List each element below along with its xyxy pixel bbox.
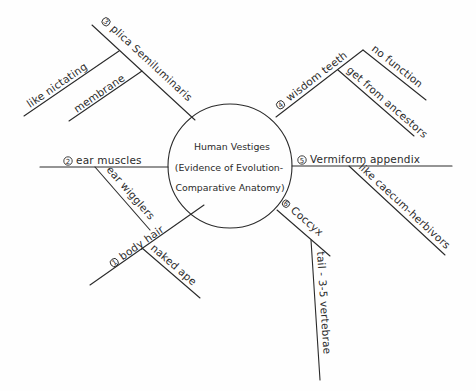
branch-label: ear muscles (76, 154, 142, 166)
detail-label: naked ape (149, 241, 200, 287)
branch-line (92, 25, 195, 120)
mind-map-svg: Human Vestiges (Evidence of Evolution- C… (0, 0, 476, 391)
branch-line (276, 50, 363, 117)
branch-coccyx: 6 Coccyx tail - 3-5 vertebrae (277, 196, 334, 380)
detail-label: ear wigglers (104, 163, 157, 221)
branch-wisdom-teeth: 4 wisdom teeth no function get from ance… (273, 42, 430, 140)
detail-line (338, 70, 414, 136)
central-title: Human Vestiges (194, 141, 270, 152)
branch-number: 5 (300, 157, 304, 165)
branch-label: plica Semiluminaris (109, 22, 196, 103)
detail-line (349, 166, 445, 255)
branch-vermiform-appendix: 5 Vermiform appendix like caecum-herbivo… (292, 153, 453, 255)
central-node: Human Vestiges (Evidence of Evolution- C… (168, 104, 292, 228)
detail-label: no function (370, 42, 426, 90)
branch-ear-muscles: 2 ear muscles ear wigglers (40, 154, 168, 230)
detail-label: like caecum-herbivors (357, 161, 453, 251)
branch-label: Coccyx (289, 204, 326, 239)
detail-line (69, 71, 142, 121)
branch-label: wisdom teeth (283, 49, 349, 104)
branch-plica-semiluminaris: 3 plica Semiluminaris like nictating mem… (24, 14, 195, 121)
central-subtitle-2: Comparative Anatomy) (175, 182, 284, 193)
branch-number: 2 (66, 158, 70, 166)
mind-map-canvas: Human Vestiges (Evidence of Evolution- C… (0, 0, 476, 391)
central-subtitle-1: (Evidence of Evolution- (175, 162, 283, 173)
